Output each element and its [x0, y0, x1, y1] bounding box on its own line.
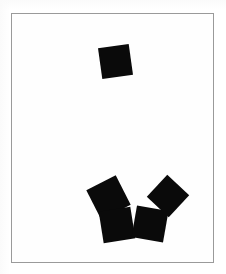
figure-root [0, 0, 226, 274]
square-shape [98, 44, 133, 79]
shape-layer [12, 14, 213, 262]
white-card [11, 13, 214, 263]
square-shape [99, 207, 136, 244]
